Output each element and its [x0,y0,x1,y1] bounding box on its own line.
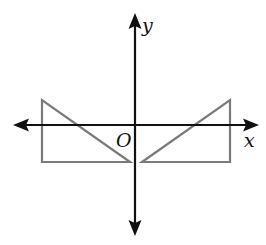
x-axis-label: x [244,129,255,151]
origin-label: O [116,129,132,151]
right-triangle [142,100,230,162]
y-axis-label: y [141,14,153,36]
coordinate-diagram: y x O [0,0,266,245]
